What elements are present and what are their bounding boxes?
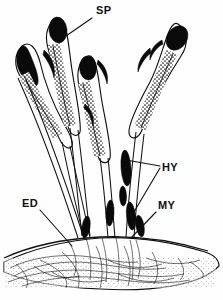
figure-panel: SP HY MY ED bbox=[0, 0, 223, 300]
label-ed: ED bbox=[22, 197, 38, 209]
fungus-illustration: SP HY MY ED bbox=[0, 0, 223, 300]
label-sp: SP bbox=[96, 4, 111, 16]
label-hy: HY bbox=[162, 161, 178, 173]
label-my: MY bbox=[158, 199, 175, 211]
